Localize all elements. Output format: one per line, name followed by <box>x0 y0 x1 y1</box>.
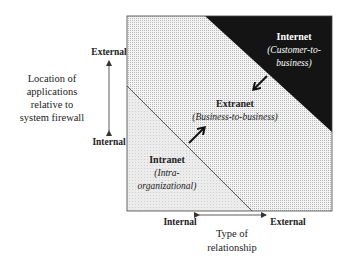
internet-title: Internet <box>277 31 313 42</box>
y-axis-title-line-3: relative to <box>31 99 73 110</box>
x-axis-title-line-1: Type of <box>216 228 249 239</box>
y-axis-title-line-4: system firewall <box>20 112 85 123</box>
intranet-subtitle-1: (Intra- <box>154 168 179 179</box>
intranet-subtitle-2: organizational) <box>138 181 197 192</box>
diagram-canvas: Internet (Customer-to- business) Extrane… <box>0 0 348 269</box>
intranet-title: Intranet <box>149 154 185 165</box>
internet-subtitle-2: business) <box>276 58 311 69</box>
x-axis-right-label: External <box>270 217 306 227</box>
x-axis-left-label: Internal <box>163 217 197 227</box>
extranet-subtitle: (Business-to-business) <box>192 112 278 123</box>
x-axis-title-line-2: relationship <box>207 242 257 253</box>
extranet-title: Extranet <box>216 98 254 109</box>
y-axis-title-line-2: applications <box>27 86 78 97</box>
internet-subtitle-1: (Customer-to- <box>267 45 321 56</box>
y-axis-top-label: External <box>91 47 127 57</box>
y-axis-title-line-1: Location of <box>28 73 77 84</box>
y-axis-bottom-label: Internal <box>92 137 126 147</box>
